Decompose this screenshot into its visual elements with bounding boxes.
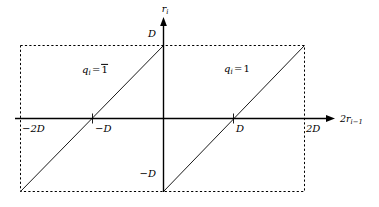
division-region-diagram: ri 2ri−1 D −D −2D −D D 2D qi=1 qi=1 (0, 0, 379, 207)
x-tick-label-plus-2d: 2D (306, 124, 320, 134)
x-axis-label-subscript: i−1 (351, 118, 363, 126)
y-axis-arrowhead (160, 17, 167, 26)
region-left-value-overbar: 1 (102, 64, 108, 75)
x-tick-label-minus-2d: −2D (22, 124, 45, 134)
x-axis-label: 2ri−1 (340, 114, 363, 126)
region-right-value: 1 (244, 63, 250, 74)
diagram-canvas (0, 0, 379, 207)
region-right-operator: = (233, 63, 244, 74)
region-label-left: qi=1 (82, 64, 108, 76)
y-axis-label: ri (162, 4, 169, 16)
region-left-operator: = (91, 64, 102, 75)
y-tick-label-top: D (148, 29, 156, 39)
x-tick-label-plus-d: D (236, 124, 244, 134)
y-tick-label-bottom: −D (140, 169, 156, 179)
region-label-right: qi=1 (224, 64, 250, 75)
x-axis-label-base: 2r (340, 113, 351, 124)
y-axis-label-subscript: i (166, 8, 168, 16)
x-tick-label-minus-d: −D (95, 124, 111, 134)
x-axis-arrowhead (326, 115, 335, 122)
